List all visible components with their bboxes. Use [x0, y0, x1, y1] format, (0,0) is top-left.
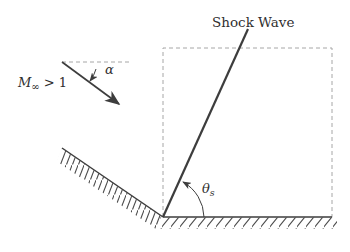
control-volume-dashed-boundary — [163, 48, 332, 217]
oblique-shock-diagram: Shock Wave M∞ > 1 α θs — [0, 0, 350, 252]
shock-angle-arc-arrow — [183, 182, 204, 217]
alpha-angle-arc-arrow — [90, 69, 96, 81]
mach-number-label: M∞ > 1 — [17, 75, 67, 92]
theta-symbol: θ — [202, 181, 210, 196]
shock-wave-label: Shock Wave — [212, 14, 294, 30]
mach-infinity-subscript: ∞ — [31, 81, 39, 92]
theta-subscript: s — [210, 187, 215, 198]
mach-condition: > 1 — [40, 75, 67, 90]
mach-symbol: M — [17, 75, 32, 90]
ramp-surface-line — [62, 148, 163, 217]
floor-surface-hatching — [160, 218, 337, 229]
shock-angle-label: θs — [202, 181, 215, 198]
alpha-angle-label: α — [105, 62, 114, 77]
diagram-canvas: Shock Wave M∞ > 1 α θs — [0, 0, 350, 252]
ramp-surface-hatching — [57, 149, 163, 231]
